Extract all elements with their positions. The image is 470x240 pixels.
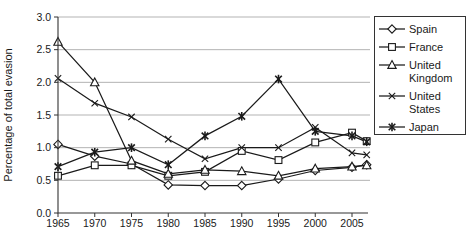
- y-tick-label: 2.5: [36, 43, 51, 55]
- square-marker-france: [275, 157, 282, 164]
- x-tick-label: 1970: [83, 217, 107, 229]
- diamond-marker-spain: [201, 181, 209, 189]
- y-tick-label: 3.0: [36, 11, 51, 23]
- y-tick-label: 0.5: [36, 174, 51, 186]
- square-marker-france: [238, 148, 245, 155]
- series-line-united-states: [58, 78, 367, 158]
- chart-canvas: 0.00.51.01.52.02.53.01965197019751980198…: [0, 0, 470, 240]
- evasion-line-chart: 0.00.51.01.52.02.53.01965197019751980198…: [0, 0, 470, 240]
- x-tick-label: 1965: [46, 217, 70, 229]
- x-tick-label: 1985: [193, 217, 217, 229]
- square-marker-france: [91, 162, 98, 169]
- diamond-marker-spain: [238, 181, 246, 189]
- x-tick-label: 1975: [120, 217, 144, 229]
- y-axis-label: Percentage of total evasion: [2, 48, 14, 181]
- series-line-france: [58, 133, 367, 176]
- series-line-japan: [58, 79, 367, 167]
- diamond-marker-spain: [164, 181, 172, 189]
- y-tick-label: 2.0: [36, 76, 51, 88]
- triangle-marker-united-kingdom: [127, 156, 135, 164]
- x-tick-label: 1990: [230, 217, 254, 229]
- legend-label-spain: Spain: [409, 23, 437, 35]
- legend-label-france: France: [409, 41, 443, 53]
- legend-label-japan: Japan: [409, 121, 439, 133]
- y-tick-label: 1.0: [36, 141, 51, 153]
- x-tick-label: 2005: [340, 217, 364, 229]
- x-tick-label: 1995: [267, 217, 291, 229]
- square-marker-legend-france: [389, 44, 396, 51]
- x-tick-label: 1980: [157, 217, 181, 229]
- y-tick-label: 1.5: [36, 109, 51, 121]
- legend-label-united-states: UnitedStates: [409, 90, 441, 115]
- series-line-united-kingdom: [58, 42, 367, 176]
- square-marker-france: [312, 139, 319, 146]
- x-tick-label: 2000: [304, 217, 328, 229]
